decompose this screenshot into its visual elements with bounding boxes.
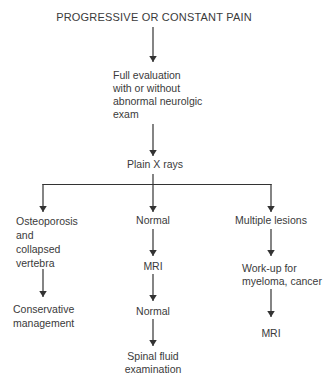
node-multiple-lesions: Multiple lesions bbox=[235, 214, 307, 227]
node-osteoporosis: Osteoporosis and collapsed vertebra bbox=[16, 214, 78, 270]
node-normal-2: Normal bbox=[136, 305, 170, 318]
node-workup-myeloma-cancer: Work-up for myeloma, cancer bbox=[242, 262, 322, 288]
node-full-evaluation: Full evaluation with or without abnormal… bbox=[113, 69, 202, 121]
node-plain-xrays: Plain X rays bbox=[127, 158, 183, 171]
flowchart-canvas: PROGRESSIVE OR CONSTANT PAIN Full evalua… bbox=[0, 0, 333, 387]
node-normal-1: Normal bbox=[136, 214, 170, 227]
node-mri-1: MRI bbox=[143, 260, 162, 273]
node-conservative-management: Conservative management bbox=[13, 302, 74, 330]
node-title: PROGRESSIVE OR CONSTANT PAIN bbox=[56, 11, 252, 24]
node-spinal-fluid-examination: Spinal fluid examination bbox=[125, 350, 182, 376]
node-mri-2: MRI bbox=[261, 327, 280, 340]
